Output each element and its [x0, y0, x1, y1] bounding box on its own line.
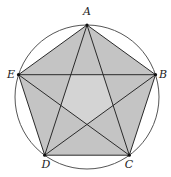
vertex-label-a: A [82, 5, 91, 18]
pentagon-figure: A B C D E [0, 0, 171, 177]
vertex-dot-b [154, 73, 157, 76]
vertex-label-e: E [6, 68, 15, 81]
vertex-label-c: C [125, 158, 134, 171]
vertex-label-d: D [41, 158, 51, 171]
pentagon-diagram: A B C D E [0, 0, 171, 177]
vertex-dot-a [85, 23, 88, 26]
vertex-dot-d [43, 154, 46, 157]
vertex-label-b: B [158, 68, 167, 81]
vertex-dot-e [17, 73, 20, 76]
vertex-dot-c [128, 154, 131, 157]
